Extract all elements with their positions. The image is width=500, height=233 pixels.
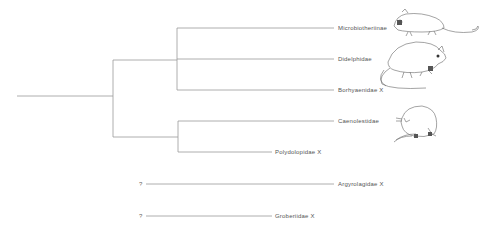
uncertain-marker-argyrolagidae: ? [139,181,142,187]
taxon-label-didelphidae: Didelphidae [338,56,372,62]
taxon-label-microbiotheriinae: Microbiotheriinae [338,25,387,31]
taxon-label-groberiidae: Groberiidae X [275,213,315,219]
microbiotheriinae-illustration-icon [392,8,482,38]
uncertain-marker-groberiidae: ? [139,213,142,219]
didelphidae-illustration-icon [376,40,452,92]
caenolestidae-illustration-icon [394,104,440,144]
taxon-label-argyrolagidae: Argyrolagidae X [338,181,384,187]
taxon-label-polydolopidae: Polydolopidae X [275,149,321,155]
taxon-label-caenolestidae: Caenolestidae [338,118,379,124]
